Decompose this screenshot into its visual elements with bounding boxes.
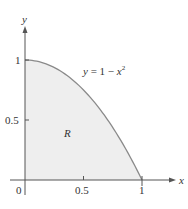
curve-label-eq: = 1 − [88,65,117,77]
y-tick-label-0.5: 0.5 [5,114,19,126]
x-tick-label-0.5: 0.5 [75,184,89,196]
x-tick-label-1: 1 [139,184,145,196]
y-axis-arrow-icon [23,26,28,33]
y-tick-label-1: 1 [15,54,21,66]
shaded-region-r [25,60,142,180]
x-axis-arrow-icon [169,178,176,183]
x-axis-label: x [178,174,184,186]
y-axis-label: y [21,13,27,25]
origin-label: 0 [16,184,22,196]
region-plot: y x 0 0.5 1 0.5 1 R y = 1 − x2 [0,0,188,209]
region-label: R [63,127,71,139]
curve-equation-label: y = 1 − x2 [82,64,126,77]
curve-label-exp: 2 [122,64,126,72]
